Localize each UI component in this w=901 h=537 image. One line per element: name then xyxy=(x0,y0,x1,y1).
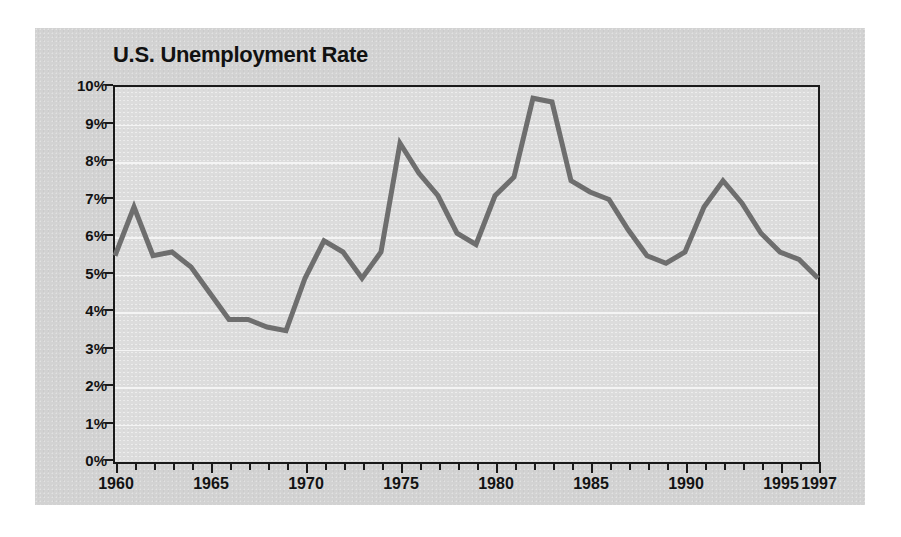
x-axis-minor-tick-mark xyxy=(363,462,365,470)
x-axis-minor-tick-mark xyxy=(154,462,156,470)
y-axis-tick-mark xyxy=(105,159,113,161)
x-axis-minor-tick-mark xyxy=(420,462,422,470)
x-axis-minor-tick-mark xyxy=(705,462,707,470)
figure-root: U.S. Unemployment Rate 0%1%2%3%4%5%6%7%8… xyxy=(0,0,901,537)
x-axis-minor-tick-mark xyxy=(477,462,479,470)
y-axis-labels: 0%1%2%3%4%5%6%7%8%9%10% xyxy=(63,85,107,460)
y-axis-tick-label: 7% xyxy=(85,189,107,206)
x-axis-tick-label: 1965 xyxy=(193,475,229,493)
x-axis-tick-label: 1960 xyxy=(98,475,134,493)
x-axis-minor-tick-mark xyxy=(534,462,536,470)
x-axis-minor-tick-mark xyxy=(667,462,669,470)
y-axis-tick-label: 0% xyxy=(85,452,107,469)
y-axis-tick-label: 5% xyxy=(85,264,107,281)
page-title: U.S. Unemployment Rate xyxy=(113,42,368,68)
y-axis-tick-label: 8% xyxy=(85,152,107,169)
y-axis-tick-label: 1% xyxy=(85,414,107,431)
y-axis-tick-label: 4% xyxy=(85,302,107,319)
x-axis-major-tick-mark xyxy=(819,462,821,473)
x-axis-minor-tick-mark xyxy=(192,462,194,470)
y-axis-tick-mark xyxy=(105,309,113,311)
x-axis-minor-tick-mark xyxy=(268,462,270,470)
x-axis-minor-tick-mark xyxy=(553,462,555,470)
y-axis-tick-mark xyxy=(105,384,113,386)
y-axis-tick-label: 6% xyxy=(85,227,107,244)
x-axis-major-tick-mark xyxy=(496,462,498,473)
x-axis-minor-tick-mark xyxy=(800,462,802,470)
x-axis-ticks xyxy=(115,462,818,472)
x-axis-minor-tick-mark xyxy=(249,462,251,470)
x-axis-minor-tick-mark xyxy=(515,462,517,470)
x-axis-tick-label: 1975 xyxy=(383,475,419,493)
series-line-chart xyxy=(115,87,818,462)
chart-panel: U.S. Unemployment Rate 0%1%2%3%4%5%6%7%8… xyxy=(35,28,865,505)
y-axis-tick-mark xyxy=(105,459,113,461)
x-axis-major-tick-mark xyxy=(211,462,213,473)
y-axis-tick-mark xyxy=(105,422,113,424)
x-axis-minor-tick-mark xyxy=(762,462,764,470)
x-axis-minor-tick-mark xyxy=(287,462,289,470)
x-axis-tick-label: 1980 xyxy=(478,475,514,493)
y-axis-tick-mark xyxy=(105,122,113,124)
x-axis-major-tick-mark xyxy=(686,462,688,473)
x-axis-major-tick-mark xyxy=(306,462,308,473)
x-axis-tick-label: 1985 xyxy=(573,475,609,493)
y-axis-tick-mark xyxy=(105,272,113,274)
x-axis-tick-label: 1990 xyxy=(668,475,704,493)
y-axis-tick-label: 10% xyxy=(77,77,107,94)
x-axis-minor-tick-mark xyxy=(230,462,232,470)
x-axis-minor-tick-mark xyxy=(344,462,346,470)
x-axis-tick-label: 1995 xyxy=(763,475,799,493)
y-axis-tick-mark xyxy=(105,234,113,236)
x-axis-labels: 196019651970197519801985199019951997 xyxy=(115,475,818,501)
y-axis-tick-label: 3% xyxy=(85,339,107,356)
x-axis-minor-tick-mark xyxy=(572,462,574,470)
y-axis-tick-mark xyxy=(105,197,113,199)
y-axis-tick-label: 2% xyxy=(85,377,107,394)
x-axis-tick-label: 1970 xyxy=(288,475,324,493)
x-axis-minor-tick-mark xyxy=(629,462,631,470)
plot-area xyxy=(113,85,820,464)
y-axis-tick-mark xyxy=(105,347,113,349)
x-axis-minor-tick-mark xyxy=(439,462,441,470)
x-axis-minor-tick-mark xyxy=(743,462,745,470)
x-axis-minor-tick-mark xyxy=(325,462,327,470)
y-axis-tick-mark xyxy=(105,84,113,86)
x-axis-minor-tick-mark xyxy=(724,462,726,470)
y-axis-tick-label: 9% xyxy=(85,114,107,131)
x-axis-major-tick-mark xyxy=(781,462,783,473)
x-axis-minor-tick-mark xyxy=(648,462,650,470)
x-axis-minor-tick-mark xyxy=(382,462,384,470)
x-axis-major-tick-mark xyxy=(116,462,118,473)
x-axis-tick-label: 1997 xyxy=(801,475,837,493)
series-polyline xyxy=(115,98,818,331)
x-axis-minor-tick-mark xyxy=(173,462,175,470)
x-axis-major-tick-mark xyxy=(591,462,593,473)
x-axis-major-tick-mark xyxy=(401,462,403,473)
x-axis-minor-tick-mark xyxy=(610,462,612,470)
x-axis-minor-tick-mark xyxy=(135,462,137,470)
x-axis-minor-tick-mark xyxy=(458,462,460,470)
